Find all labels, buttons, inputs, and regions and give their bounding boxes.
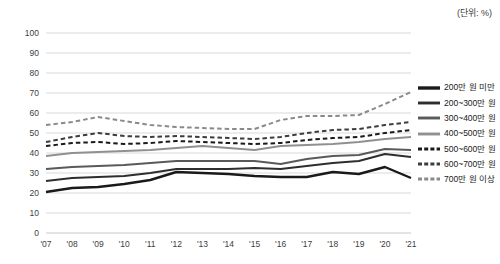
y-axis-tick-label: 80 bbox=[30, 68, 40, 78]
y-axis-tick-label: 90 bbox=[30, 48, 40, 58]
y-axis-tick-label: 20 bbox=[30, 188, 40, 198]
legend-swatch-icon bbox=[418, 83, 440, 93]
series-line bbox=[46, 122, 411, 142]
x-axis-tick-label: '14 bbox=[223, 239, 234, 249]
legend-item-label: 300~400만 원 bbox=[444, 114, 496, 123]
legend-swatch-icon bbox=[418, 159, 440, 169]
legend-item[interactable]: 300~400만 원 bbox=[418, 111, 500, 126]
series-line bbox=[46, 92, 411, 129]
legend-item-label: 700만 원 이상 bbox=[444, 175, 495, 184]
series-line bbox=[46, 167, 411, 192]
legend-item-label: 600~700만 원 bbox=[444, 160, 496, 169]
legend-item[interactable]: 200~300만 원 bbox=[418, 95, 500, 110]
x-axis-tick-label: '21 bbox=[405, 239, 416, 249]
data-series bbox=[46, 92, 411, 192]
y-axis-tick-label: 70 bbox=[30, 88, 40, 98]
legend-swatch-icon bbox=[418, 144, 440, 154]
x-axis-tick-label: '16 bbox=[275, 239, 286, 249]
x-axis-tick-label: '10 bbox=[119, 239, 130, 249]
series-line bbox=[46, 154, 411, 181]
x-axis-ticks: '07'08'09'10'11'12'13'14'15'16'17'18'19'… bbox=[40, 239, 416, 249]
x-axis-tick-label: '09 bbox=[93, 239, 104, 249]
legend-swatch-icon bbox=[418, 98, 440, 108]
x-axis-tick-label: '12 bbox=[171, 239, 182, 249]
legend-item[interactable]: 400~500만 원 bbox=[418, 126, 500, 141]
x-axis-tick-label: '18 bbox=[327, 239, 338, 249]
line-chart: (단위: %) 0102030405060708090100 '07'08'09… bbox=[0, 0, 500, 264]
y-axis-tick-label: 40 bbox=[30, 148, 40, 158]
x-axis-tick-label: '07 bbox=[40, 239, 51, 249]
y-axis-tick-label: 50 bbox=[30, 128, 40, 138]
y-axis-ticks: 0102030405060708090100 bbox=[25, 28, 39, 238]
legend-item[interactable]: 700만 원 이상 bbox=[418, 172, 500, 187]
x-axis-tick-label: '08 bbox=[67, 239, 78, 249]
y-axis-tick-label: 60 bbox=[30, 108, 40, 118]
x-axis-tick-label: '13 bbox=[197, 239, 208, 249]
legend-item-label: 200만 원 미만 bbox=[444, 83, 495, 92]
legend-swatch-icon bbox=[418, 174, 440, 184]
x-axis-tick-label: '11 bbox=[145, 239, 156, 249]
legend-swatch-icon bbox=[418, 113, 440, 123]
legend-item-label: 500~600만 원 bbox=[444, 145, 496, 154]
legend-item-label: 200~300만 원 bbox=[444, 99, 496, 108]
legend: 200만 원 미만200~300만 원300~400만 원400~500만 원5… bbox=[418, 80, 500, 187]
y-axis-tick-label: 0 bbox=[34, 228, 39, 238]
y-axis-tick-label: 10 bbox=[30, 208, 40, 218]
legend-item[interactable]: 500~600만 원 bbox=[418, 141, 500, 156]
y-axis-tick-label: 30 bbox=[30, 168, 40, 178]
legend-item[interactable]: 600~700만 원 bbox=[418, 156, 500, 171]
legend-swatch-icon bbox=[418, 129, 440, 139]
x-axis-tick-label: '17 bbox=[301, 239, 312, 249]
x-axis-tick-label: '15 bbox=[249, 239, 260, 249]
legend-item-label: 400~500만 원 bbox=[444, 129, 496, 138]
x-axis-tick-label: '20 bbox=[379, 239, 390, 249]
y-axis-tick-label: 100 bbox=[25, 28, 39, 38]
x-axis-tick-label: '19 bbox=[353, 239, 364, 249]
legend-item[interactable]: 200만 원 미만 bbox=[418, 80, 500, 95]
